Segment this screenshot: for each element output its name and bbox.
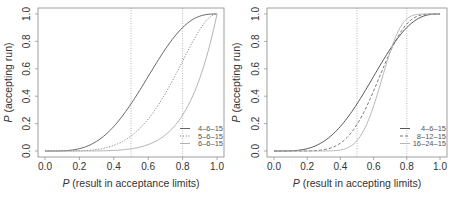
y-tick-label: 0.0 bbox=[250, 144, 261, 158]
series-curve bbox=[45, 14, 217, 151]
y-tick-label: 0.8 bbox=[250, 34, 261, 48]
y-tick-label: 0.6 bbox=[250, 61, 261, 75]
y-tick-label: 1.0 bbox=[250, 7, 261, 21]
x-tick-label: 0.6 bbox=[141, 161, 155, 172]
right-chart-panel: 0.00.20.40.60.81.00.00.20.40.60.81.0P (r… bbox=[230, 7, 447, 189]
legend: 4–6–158–12–1516–24–15 bbox=[400, 124, 446, 148]
y-tick-label: 0.2 bbox=[250, 116, 261, 130]
y-tick-label: 1.0 bbox=[21, 7, 32, 21]
x-axis-label: P (result in accepting limits) bbox=[293, 177, 421, 189]
y-tick-label: 0.4 bbox=[21, 89, 32, 103]
x-axis-label: P (result in acceptance limits) bbox=[62, 177, 199, 189]
x-tick-label: 1.0 bbox=[210, 161, 224, 172]
series-curve bbox=[45, 14, 217, 151]
series-curve bbox=[274, 14, 440, 151]
x-tick-label: 0.4 bbox=[333, 161, 347, 172]
y-tick-label: 0.8 bbox=[21, 34, 32, 48]
x-tick-label: 0.2 bbox=[300, 161, 314, 172]
y-axis-label: P (accepting run) bbox=[230, 43, 242, 123]
x-tick-label: 0.8 bbox=[400, 161, 414, 172]
series-curve bbox=[45, 14, 217, 151]
legend: 4–6–155–6–156–6–15 bbox=[180, 124, 223, 148]
y-tick-label: 0.6 bbox=[21, 61, 32, 75]
legend-label: 6–6–15 bbox=[198, 139, 223, 148]
x-tick-label: 0.6 bbox=[367, 161, 381, 172]
y-axis-label: P (accepting run) bbox=[2, 43, 14, 123]
x-tick-label: 0.4 bbox=[107, 161, 121, 172]
chart-figure: 0.00.20.40.60.81.00.00.20.40.60.81.0P (r… bbox=[0, 0, 456, 198]
x-tick-label: 0.2 bbox=[72, 161, 86, 172]
y-tick-label: 0.0 bbox=[21, 144, 32, 158]
left-chart-panel: 0.00.20.40.60.81.00.00.20.40.60.81.0P (r… bbox=[2, 7, 224, 189]
x-tick-label: 0.0 bbox=[267, 161, 281, 172]
series-curve bbox=[274, 14, 440, 151]
plot-frame bbox=[38, 8, 224, 157]
legend-label: 16–24–15 bbox=[413, 139, 446, 148]
x-tick-label: 1.0 bbox=[433, 161, 447, 172]
y-tick-label: 0.2 bbox=[21, 116, 32, 130]
y-tick-label: 0.4 bbox=[250, 89, 261, 103]
x-tick-label: 0.8 bbox=[176, 161, 190, 172]
series-curve bbox=[274, 14, 440, 151]
x-tick-label: 0.0 bbox=[38, 161, 52, 172]
